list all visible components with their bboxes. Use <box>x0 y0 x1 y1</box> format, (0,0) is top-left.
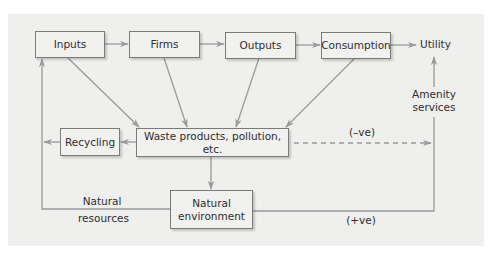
node-recycling: Recycling <box>60 128 120 156</box>
node-recycling-label: Recycling <box>65 136 115 149</box>
node-consumption: Consumption <box>321 32 391 59</box>
label-positive-effect: (+ve) <box>346 214 376 227</box>
node-firms: Firms <box>129 31 200 58</box>
node-outputs: Outputs <box>225 32 296 59</box>
label-amenity-services: Amenity services <box>409 88 459 114</box>
node-natural-environment-line1: Natural <box>192 197 231 210</box>
arrow-inputs-to-waste <box>68 58 139 127</box>
label-negative-effect: (–ve) <box>348 126 376 139</box>
node-waste: Waste products, pollution, etc. <box>136 128 289 157</box>
node-inputs: Inputs <box>35 31 105 58</box>
node-firms-label: Firms <box>150 38 178 51</box>
label-natural-resources-line1: Natural <box>82 195 122 208</box>
node-outputs-label: Outputs <box>240 39 282 52</box>
arrow-outputs-to-waste <box>236 58 259 127</box>
node-waste-label: Waste products, pollution, etc. <box>137 130 288 156</box>
arrow-consumption-to-waste <box>286 58 355 127</box>
node-natural-environment: Natural environment <box>170 190 253 229</box>
label-amenity-line1: Amenity <box>409 88 459 101</box>
node-utility: Utility <box>420 38 450 51</box>
node-inputs-label: Inputs <box>54 38 87 51</box>
node-natural-environment-line2: environment <box>178 210 245 223</box>
label-amenity-line2: services <box>409 101 459 114</box>
label-natural-resources-line2: resources <box>78 212 128 225</box>
node-consumption-label: Consumption <box>321 39 391 52</box>
arrow-firms-to-waste <box>164 58 187 127</box>
